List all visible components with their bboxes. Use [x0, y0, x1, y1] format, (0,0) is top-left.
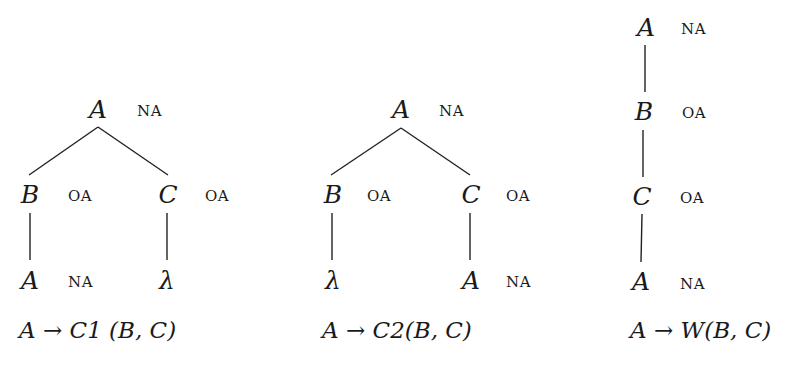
rule-caption: A → C1 (B, C) — [19, 319, 176, 342]
arrow-icon: → — [43, 317, 62, 343]
rule-caption: A → C2(B, C) — [322, 319, 472, 342]
node-root-a: A — [89, 97, 107, 122]
caption-rhs: W(B, C) — [681, 317, 772, 343]
arrow-icon: → — [654, 317, 673, 343]
node-tag: NA — [137, 104, 162, 119]
node-root-a: A — [637, 15, 655, 40]
edge-a-b — [29, 127, 98, 175]
caption-lhs: A — [19, 317, 36, 343]
node-tag: OA — [506, 189, 530, 204]
node-b: B — [635, 99, 653, 124]
node-b: B — [324, 182, 342, 207]
edge-a-b — [331, 128, 401, 175]
node-tag: NA — [681, 22, 706, 37]
node-tag: OA — [367, 189, 391, 204]
node-tag: OA — [682, 106, 706, 121]
caption-lhs: A — [630, 317, 647, 343]
rule-caption: A → W(B, C) — [630, 319, 771, 342]
arrow-icon: → — [346, 317, 365, 343]
node-lambda: λ — [325, 268, 341, 293]
tree-edges — [0, 0, 788, 367]
node-tag: OA — [205, 189, 229, 204]
node-c: C — [461, 182, 480, 207]
node-c: C — [158, 182, 177, 207]
node-tag: NA — [680, 277, 705, 292]
node-b: B — [21, 182, 39, 207]
node-leaf-a: A — [21, 268, 39, 293]
node-lambda: λ — [159, 268, 175, 293]
caption-rhs: C2(B, C) — [373, 317, 472, 343]
node-leaf-a: A — [462, 268, 480, 293]
node-tag: NA — [506, 275, 531, 290]
edge-c-a — [641, 214, 642, 262]
edge-a-c — [401, 128, 470, 175]
node-tag: OA — [68, 189, 92, 204]
caption-lhs: A — [322, 317, 339, 343]
node-tag: OA — [680, 191, 704, 206]
node-c: C — [632, 184, 651, 209]
node-tag: NA — [439, 104, 464, 119]
edge-a-c — [98, 127, 168, 175]
tree-diagrams-figure: A NA B OA C OA A NA λ A → C1 (B, C) A NA… — [0, 0, 788, 367]
node-root-a: A — [392, 97, 410, 122]
node-tag: NA — [68, 275, 93, 290]
node-leaf-a: A — [632, 269, 650, 294]
caption-rhs: C1 (B, C) — [70, 317, 177, 343]
